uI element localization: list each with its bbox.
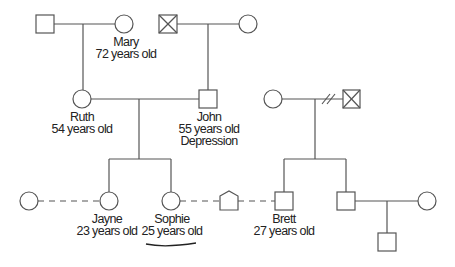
jayne-label: Jayne 23 years old [77,213,138,237]
mary-label: Mary 72 years old [96,36,157,60]
maternal-grandfather-square [36,15,54,33]
ruth-circle [73,90,91,108]
ruth-age: 54 years old [52,123,113,135]
nephew-square [378,233,396,251]
brett-square [275,192,293,210]
john-square [199,90,217,108]
sophie-age: 25 years old [142,225,203,237]
brett-label: Brett 27 years old [254,213,315,237]
jayne-age: 23 years old [77,225,138,237]
jayne-circle [100,192,118,210]
brett-brother-square [337,192,355,210]
pet-house-pentagon [220,191,238,210]
paternal-grandmother-circle [239,15,257,33]
sophie-circle [162,192,180,210]
mary-age: 72 years old [96,48,157,60]
ruth-label: Ruth 54 years old [52,111,113,135]
john-label: John 55 years old Depression [179,111,240,147]
brett-age: 27 years old [254,225,315,237]
john-condition: Depression [179,135,240,147]
jayne-partner-circle [20,192,38,210]
brother-wife-circle [418,192,436,210]
brett-mother-circle [264,90,282,108]
brett-father-deceased-square [343,90,360,108]
sophie-age-underline [146,243,196,246]
sophie-label: Sophie 25 years old [142,213,203,237]
paternal-grandfather-deceased-square [159,15,177,33]
mary-circle [115,15,133,33]
